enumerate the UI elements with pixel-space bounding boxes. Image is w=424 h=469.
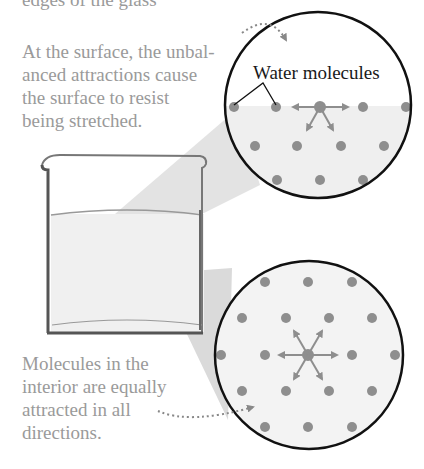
cut-off-heading: edges of the glass: [22, 0, 157, 11]
surface-tension-diagram: edges of the glass At the surface, the u…: [0, 0, 424, 469]
water-molecules-label: Water molecules: [253, 62, 380, 84]
interior-molecules-inset: [215, 261, 403, 449]
surface-caption: At the surface, the unbal- anced attract…: [22, 40, 232, 132]
interior-caption: Molecules in the interior are equally at…: [22, 352, 202, 444]
